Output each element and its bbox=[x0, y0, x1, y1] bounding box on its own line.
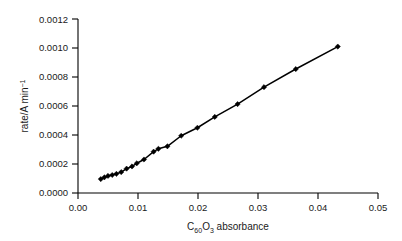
plot-area: 0.0000 0.0002 0.0004 0.0006 0.0008 0.001… bbox=[0, 0, 402, 241]
y-axis-title: rate/A min−1 bbox=[19, 79, 31, 132]
x-tick-label-3: 0.03 bbox=[249, 202, 268, 213]
x-tick-label-2: 0.02 bbox=[189, 202, 208, 213]
y-tick-marks bbox=[72, 19, 78, 193]
y-tick-label-5: 0.0010 bbox=[39, 42, 68, 53]
y-tick-label-4: 0.0008 bbox=[39, 71, 68, 82]
x-tick-label-0: 0.00 bbox=[69, 202, 88, 213]
data-point bbox=[110, 172, 115, 177]
x-tick-label-5: 0.05 bbox=[369, 202, 388, 213]
chart-figure: 0.0000 0.0002 0.0004 0.0006 0.0008 0.001… bbox=[0, 0, 402, 241]
y-tick-label-0: 0.0000 bbox=[39, 187, 68, 198]
x-axis-title-sub1: 60 bbox=[194, 227, 202, 234]
x-axis-title: C60O3 absorbance bbox=[187, 221, 269, 234]
y-tick-label-3: 0.0006 bbox=[39, 100, 68, 111]
x-axis-title-lead: C bbox=[187, 221, 194, 232]
y-axis-title-lead: rate/A min bbox=[19, 87, 30, 132]
x-tick-label-1: 0.01 bbox=[129, 202, 148, 213]
y-tick-label-6: 0.0012 bbox=[39, 14, 68, 25]
y-tick-label-2: 0.0004 bbox=[39, 129, 68, 140]
x-tick-label-4: 0.04 bbox=[309, 202, 328, 213]
y-tick-label-1: 0.0002 bbox=[39, 158, 68, 169]
data-point bbox=[114, 171, 119, 176]
x-axis-title-tail: absorbance bbox=[214, 221, 269, 232]
data-series-line bbox=[101, 47, 338, 180]
y-axis-title-sup: −1 bbox=[19, 79, 26, 87]
x-tick-marks bbox=[78, 193, 378, 199]
